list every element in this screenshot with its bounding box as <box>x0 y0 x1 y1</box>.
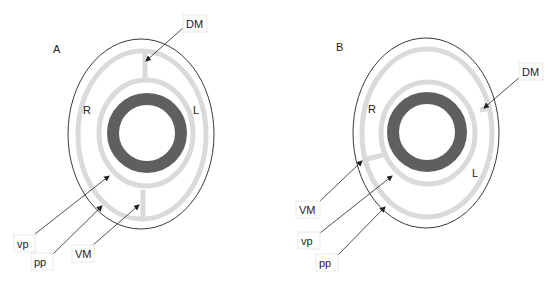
vm-arrow <box>318 161 362 203</box>
dm-label: DM <box>186 18 203 30</box>
dark-ring <box>113 99 181 167</box>
vm-label: VM <box>299 204 316 216</box>
diagram-canvas: A R L DM vp pp VM B <box>0 0 559 284</box>
vp-arrow <box>320 176 392 233</box>
dorsal-septum <box>480 108 490 110</box>
panel-a: A R L DM vp pp VM <box>14 15 214 270</box>
side-label-r: R <box>368 103 376 115</box>
panel-b: B R L DM VM vp pp <box>296 38 543 271</box>
dm-label: DM <box>522 66 539 78</box>
pp-label: pp <box>34 256 46 268</box>
pp-label: pp <box>319 257 331 269</box>
panel-a-label: A <box>53 43 61 55</box>
vm-label: VM <box>75 248 92 260</box>
dm-arrow <box>484 76 521 108</box>
side-label-l: L <box>472 167 478 179</box>
vp-arrow <box>35 176 109 234</box>
panel-b-label: B <box>336 41 343 53</box>
vp-label: vp <box>301 235 313 247</box>
dark-ring <box>393 98 461 166</box>
side-label-l: L <box>193 104 199 116</box>
vp-label: vp <box>17 238 29 250</box>
side-label-r: R <box>83 104 91 116</box>
